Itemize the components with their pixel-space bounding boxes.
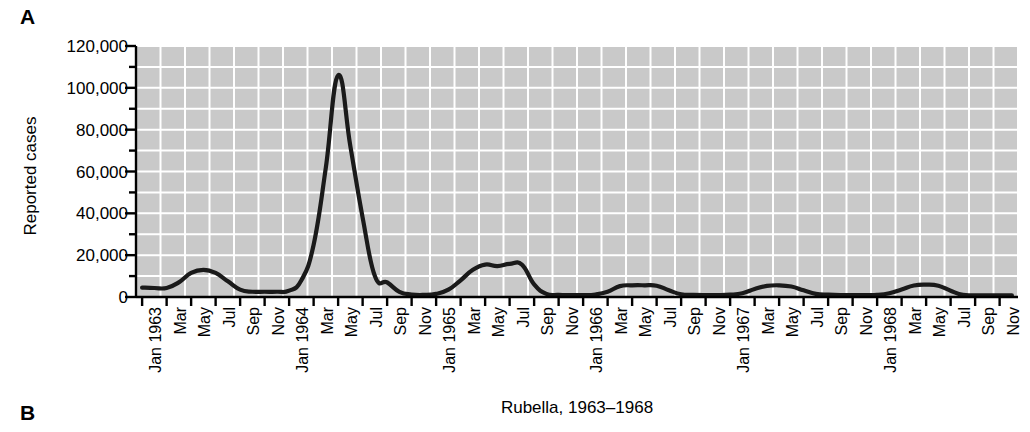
x-tick-label: Nov: [712, 307, 728, 335]
x-tick-label: Jul: [369, 307, 385, 327]
x-tick-label: Sep: [246, 307, 262, 335]
x-tick-label: Nov: [565, 307, 581, 335]
x-tick-label: Mar: [467, 307, 483, 335]
x-tick-label: Jul: [810, 307, 826, 327]
x-tick-label: May: [197, 307, 213, 337]
panel-letter-b: B: [20, 402, 35, 423]
x-tick-label: Nov: [1006, 307, 1022, 335]
x-tick-label: May: [785, 307, 801, 337]
x-tick-label: Jan 1963: [148, 307, 164, 373]
x-tick-label: Jul: [222, 307, 238, 327]
rubella-line-chart: Reported cases 020,00040,00060,00080,000…: [0, 0, 1030, 432]
x-tick-label: Jan 1964: [295, 307, 311, 373]
x-tick-label: Sep: [687, 307, 703, 335]
x-tick-label: Nov: [859, 307, 875, 335]
x-tick-label: Nov: [271, 307, 287, 335]
x-tick-label: Jan 1967: [736, 307, 752, 373]
x-tick-label: Sep: [834, 307, 850, 335]
x-tick-label: Sep: [393, 307, 409, 335]
x-tick-label: Nov: [418, 307, 434, 335]
x-tick-label: Mar: [320, 307, 336, 335]
chart-title: Rubella, 1963–1968: [136, 398, 1018, 418]
x-tick-label: May: [491, 307, 507, 337]
plot-area: [136, 46, 1018, 297]
y-tick-label: 100,000: [26, 79, 128, 96]
x-tick-label: Sep: [540, 307, 556, 335]
x-tick-label: Jan 1965: [442, 307, 458, 373]
y-tick-label: 60,000: [26, 163, 128, 180]
x-tick-label: May: [638, 307, 654, 337]
y-tick-label: 120,000: [26, 38, 128, 55]
reported-cases-series: [136, 46, 1018, 297]
y-tick-label: 20,000: [26, 247, 128, 264]
x-tick-label: Jan 1966: [589, 307, 605, 373]
x-tick-label: May: [932, 307, 948, 337]
y-tick-label: 0: [26, 289, 128, 306]
y-axis-tick-labels: 020,00040,00060,00080,000100,000120,000: [26, 46, 128, 297]
x-tick-label: Jan 1968: [883, 307, 899, 373]
x-axis-tick-labels: Jan 1963MarMayJulSepNovJan 1964MarMayJul…: [136, 303, 1018, 395]
x-tick-label: Mar: [173, 307, 189, 335]
y-tick-label: 80,000: [26, 121, 128, 138]
x-tick-label: May: [344, 307, 360, 337]
x-tick-label: Jul: [957, 307, 973, 327]
y-tick-label: 40,000: [26, 205, 128, 222]
x-tick-label: Jul: [663, 307, 679, 327]
x-tick-label: Mar: [761, 307, 777, 335]
x-tick-label: Mar: [908, 307, 924, 335]
x-tick-label: Jul: [516, 307, 532, 327]
x-tick-label: Mar: [614, 307, 630, 335]
x-tick-label: Sep: [981, 307, 997, 335]
